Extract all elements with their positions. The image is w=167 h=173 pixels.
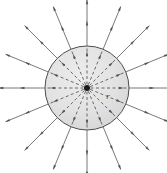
- field-arrowhead: [150, 87, 155, 89]
- field-arrowhead: [53, 165, 56, 170]
- field-arrowhead: [144, 62, 149, 65]
- field-arrowhead: [86, 151, 88, 156]
- field-arrowhead: [53, 6, 56, 11]
- field-arrowhead: [0, 87, 3, 89]
- field-arrowhead: [118, 6, 121, 11]
- field-arrowhead: [5, 54, 10, 57]
- physics-field-diagram: r: [0, 0, 167, 173]
- field-arrowhead: [86, 172, 88, 173]
- field-arrowhead: [25, 62, 30, 65]
- field-arrowhead: [144, 111, 149, 114]
- field-arrowhead: [164, 54, 167, 57]
- field-diagram-canvas: r: [0, 0, 167, 173]
- radius-label: r: [106, 91, 110, 101]
- field-arrowhead: [110, 145, 113, 150]
- field-arrowhead: [110, 26, 113, 31]
- point-charge-dot: [84, 85, 90, 91]
- field-arrowhead: [25, 111, 30, 114]
- field-arrowhead: [61, 26, 64, 31]
- field-arrowhead: [86, 0, 88, 4]
- field-arrowhead: [118, 165, 121, 170]
- field-arrowhead: [20, 87, 25, 89]
- field-arrowhead: [5, 119, 10, 122]
- field-arrowhead: [164, 119, 167, 122]
- field-arrowhead: [61, 145, 64, 150]
- field-arrowhead: [86, 21, 88, 26]
